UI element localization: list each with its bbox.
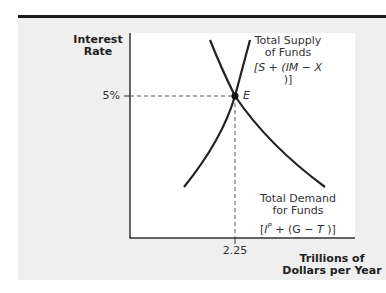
demand-formula-t: T	[317, 223, 324, 236]
demand-formula: [IP + (G − T )]	[258, 220, 338, 236]
equilibrium-label: E	[243, 90, 250, 102]
supply-label: Total Supply of Funds [S + (IM − X )]	[250, 35, 326, 86]
supply-formula-x: X	[315, 61, 323, 74]
supply-formula-open: [S + (	[254, 61, 286, 74]
equilibrium-point	[232, 93, 239, 100]
chart-svg	[0, 0, 386, 293]
supply-formula: [S + (IM − X )]	[250, 62, 326, 86]
x-axis-title: Trillions of Dollars per Year	[280, 253, 384, 277]
supply-curve	[184, 40, 250, 187]
demand-label-line2: for Funds	[258, 205, 338, 217]
y-tick-label: 5%	[90, 90, 120, 102]
supply-formula-close: )]	[284, 73, 293, 86]
y-axis-title: Interest Rate	[68, 34, 128, 58]
supply-formula-minus: −	[298, 61, 314, 74]
y-axis-title-line2: Rate	[68, 46, 128, 58]
supply-label-line2: of Funds	[250, 47, 326, 59]
demand-formula-close: )]	[324, 223, 336, 236]
x-axis-title-line2: Dollars per Year	[280, 265, 384, 277]
x-tick-label: 2.25	[215, 245, 255, 257]
demand-formula-mid: + (G −	[272, 223, 317, 236]
demand-label: Total Demand for Funds [IP + (G − T )]	[258, 193, 338, 236]
